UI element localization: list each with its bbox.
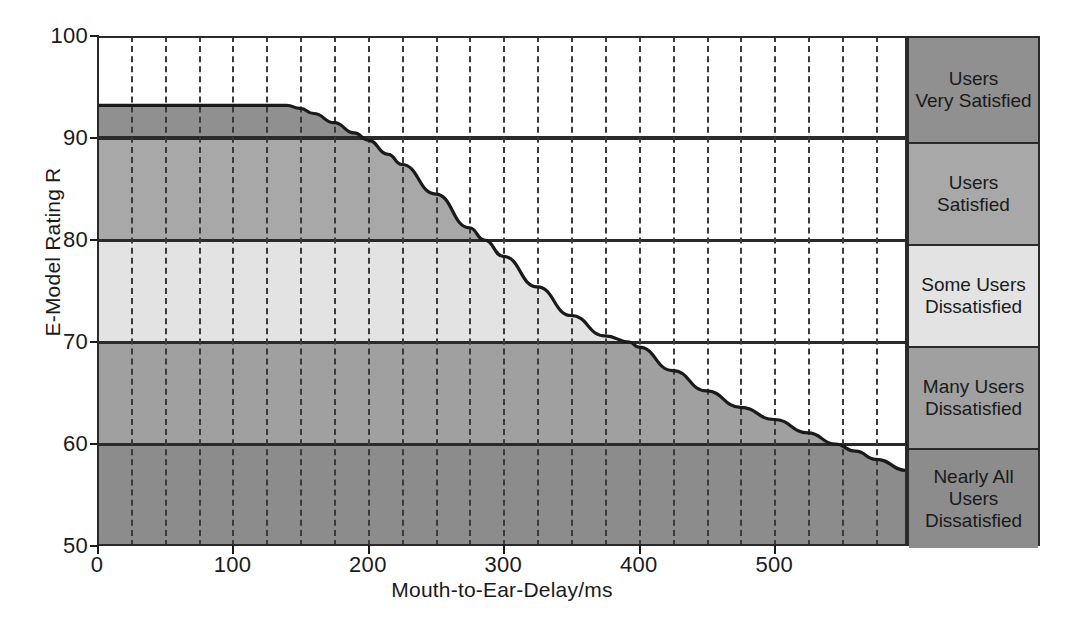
legend-text-many-dissatisfied: Many Users Dissatisfied xyxy=(923,376,1024,420)
x-tickmark-400 xyxy=(639,545,641,554)
y-tick-70: 70 xyxy=(28,329,88,355)
x-tickmark-300 xyxy=(503,545,505,554)
x-tick-200: 200 xyxy=(349,552,387,578)
legend-text-satisfied: Users Satisfied xyxy=(937,172,1010,216)
y-tick-100: 100 xyxy=(28,23,88,49)
curve-stroke xyxy=(97,105,907,470)
y-tick-60: 60 xyxy=(28,431,88,457)
legend-row-very-satisfied: Users Very Satisfied xyxy=(909,38,1038,142)
satisfaction-legend-panel: Users Very Satisfied Users Satisfied Som… xyxy=(907,36,1040,546)
y-tick-50: 50 xyxy=(28,533,88,559)
x-tick-400: 400 xyxy=(620,552,658,578)
legend-text-some-dissatisfied: Some Users Dissatisfied xyxy=(921,274,1026,318)
x-tickmark-500 xyxy=(774,545,776,554)
y-tick-labels: 100 90 80 70 60 50 xyxy=(22,0,88,627)
x-axis-title: Mouth-to-Ear-Delay/ms xyxy=(97,578,907,602)
x-tick-300: 300 xyxy=(485,552,523,578)
x-tick-0: 0 xyxy=(91,552,104,578)
plot-area xyxy=(97,36,907,546)
y-tick-80: 80 xyxy=(28,227,88,253)
x-tick-500: 500 xyxy=(755,552,793,578)
legend-row-nearly-all-dissatisfied: Nearly All Users Dissatisfied xyxy=(909,448,1038,548)
chart-root: E-Model Rating R 100 90 80 70 60 50 01 xyxy=(0,0,1073,627)
legend-row-many-dissatisfied: Many Users Dissatisfied xyxy=(909,346,1038,448)
legend-text-very-satisfied: Users Very Satisfied xyxy=(915,68,1031,112)
x-tickmark-100 xyxy=(232,545,234,554)
legend-text-nearly-all-dissatisfied: Nearly All Users Dissatisfied xyxy=(925,466,1022,532)
x-tick-100: 100 xyxy=(214,552,252,578)
rating-curve xyxy=(97,36,907,546)
y-tick-90: 90 xyxy=(28,125,88,151)
legend-row-satisfied: Users Satisfied xyxy=(909,142,1038,244)
x-tickmark-200 xyxy=(368,545,370,554)
legend-row-some-dissatisfied: Some Users Dissatisfied xyxy=(909,244,1038,346)
x-tickmark-0 xyxy=(97,545,99,554)
